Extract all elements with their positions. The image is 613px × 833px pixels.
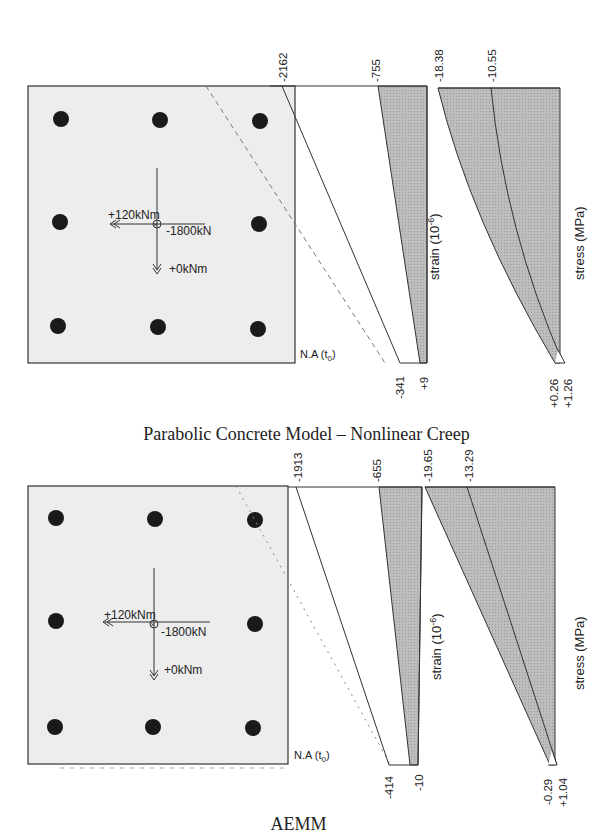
rebar <box>247 616 263 632</box>
rebar <box>152 112 168 128</box>
rebar <box>50 318 66 334</box>
stress-top-value-total: -18.38 <box>433 49 445 82</box>
rebar <box>147 511 163 527</box>
moment-x-label: +120kNm <box>108 208 160 222</box>
strain-top-value-total: -2162 <box>277 53 289 82</box>
strain-bottom-value-inst: +9 <box>418 377 430 390</box>
stress-bottom-value-1: +0.26 <box>548 379 560 408</box>
strain-diagram <box>288 487 422 765</box>
strain-axis-label: strain (10-6) <box>426 213 442 280</box>
rebar <box>251 216 267 232</box>
stress-diagram <box>425 487 557 765</box>
rebar <box>52 214 68 230</box>
strain-top-value-total: -1913 <box>292 453 304 482</box>
strain-diagram <box>282 86 427 363</box>
panel-caption-parabolic: Parabolic Concrete Model – Nonlinear Cre… <box>0 424 613 445</box>
strain-bottom-value-total: -414 <box>383 775 395 799</box>
strain-bottom-value-inst: -10 <box>413 774 425 791</box>
rebar <box>252 113 268 129</box>
panel-aemm: × +120kNm -1800kN +0kNm N.A (t0) -1913 -… <box>28 449 587 807</box>
strain-axis-label: strain (10-6) <box>428 613 444 680</box>
axial-force-label: -1800kN <box>166 224 211 238</box>
figure-canvas: × +120kNm -1800kN +0kNm N.A (t0) -2162 -… <box>0 0 613 833</box>
moment-y-label: +0kNm <box>169 262 207 276</box>
rebar <box>150 319 166 335</box>
svg-text:×: × <box>154 221 158 228</box>
neutral-axis-label: N.A (t0) <box>294 749 330 764</box>
rebar <box>53 111 69 127</box>
axial-force-label: -1800kN <box>161 625 206 639</box>
panel-caption-aemm: AEMM <box>0 814 605 833</box>
strain-top-value-inst: -655 <box>371 459 383 482</box>
stress-top-value-inst: -13.29 <box>463 449 475 482</box>
neutral-axis-label: N.A (t0) <box>300 348 336 363</box>
stress-top-value-total: -19.65 <box>422 449 434 482</box>
rebar <box>250 321 266 337</box>
stress-axis-label: stress (MPa) <box>572 616 587 690</box>
rebar <box>245 720 261 736</box>
rebar <box>48 613 64 629</box>
rebar <box>247 512 263 528</box>
stress-diagram <box>438 88 565 363</box>
panel-parabolic: × +120kNm -1800kN +0kNm N.A (t0) -2162 -… <box>28 49 587 408</box>
stress-bottom-value-2: +1.26 <box>562 379 574 408</box>
rebar <box>48 510 64 526</box>
stress-bottom-value-2: +1.04 <box>557 777 569 807</box>
stress-axis-label: stress (MPa) <box>572 206 587 280</box>
moment-x-label: +120kNm <box>104 608 156 622</box>
stress-top-value-inst: -10.55 <box>486 49 498 82</box>
stress-bottom-value-1: -0.29 <box>542 779 554 805</box>
moment-y-label: +0kNm <box>164 663 202 677</box>
strain-top-value-inst: -755 <box>370 59 382 82</box>
svg-text:×: × <box>151 621 155 628</box>
strain-bottom-value-total: -341 <box>394 376 406 399</box>
rebar <box>145 719 161 735</box>
rebar <box>47 719 63 735</box>
